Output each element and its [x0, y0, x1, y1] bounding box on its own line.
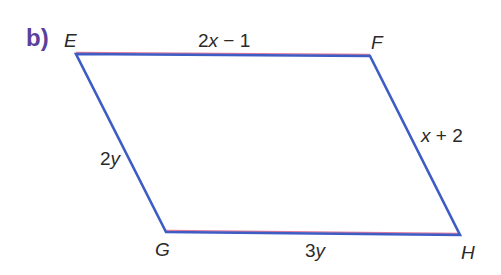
- side-ef-text: 2x − 1: [198, 30, 250, 51]
- vertex-label-f: F: [371, 33, 383, 52]
- part-label: b): [26, 26, 49, 50]
- side-label-fh: x + 2: [421, 126, 463, 145]
- side-eg-text: 2y: [100, 148, 120, 169]
- vertex-label-g: G: [155, 240, 170, 259]
- vertex-label-e: E: [64, 31, 77, 50]
- vertex-label-h: H: [461, 243, 475, 262]
- parallelogram-figure: b) E F G H 2x − 1 x + 2 2y 3y: [0, 0, 501, 275]
- parallelogram-outline: [76, 54, 460, 235]
- side-label-gh: 3y: [305, 241, 325, 260]
- side-gh-text: 3y: [305, 240, 325, 261]
- side-label-eg: 2y: [100, 149, 120, 168]
- side-label-ef: 2x − 1: [198, 31, 250, 50]
- side-fh-text: x + 2: [421, 125, 463, 146]
